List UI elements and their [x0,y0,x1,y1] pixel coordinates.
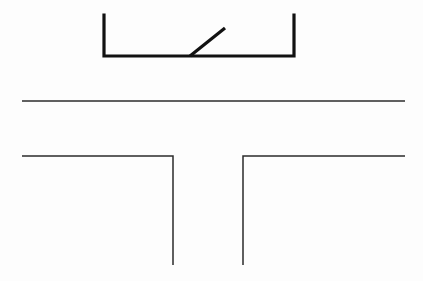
drawing-canvas [0,0,423,281]
canvas-background [0,0,423,281]
line-drawing-svg [0,0,423,281]
